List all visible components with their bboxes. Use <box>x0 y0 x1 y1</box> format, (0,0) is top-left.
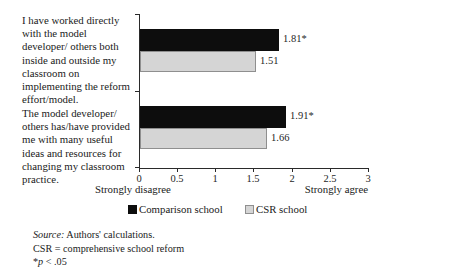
axis-anchor-low: Strongly disagree <box>95 183 171 196</box>
y-axis-tick <box>135 91 139 92</box>
x-axis-label-1-5: 1.5 <box>238 173 268 185</box>
note-source: Source: Authors' calculations. <box>33 228 333 242</box>
note-source-label: Source: <box>33 229 64 240</box>
figure-notes: Source: Authors' calculations. CSR = com… <box>33 228 333 269</box>
bar-comparison-category-2 <box>140 106 286 128</box>
note-significance: *p < .05 <box>33 255 333 269</box>
plot-area: 1.81* 1.51 1.91* 1.66 <box>139 14 368 168</box>
note-significance-rest: < .05 <box>43 256 67 267</box>
bar-value-csr-category-2: 1.66 <box>271 132 289 144</box>
legend-item-comparison-school: Comparison school <box>128 203 223 215</box>
legend-label-comparison-school: Comparison school <box>139 203 223 215</box>
x-axis-label-2: 2 <box>277 173 307 185</box>
legend-swatch-comparison-school <box>128 205 137 214</box>
bar-value-csr-category-1: 1.51 <box>260 55 278 67</box>
note-abbreviation: CSR = comprehensive school reform <box>33 242 333 256</box>
legend-item-csr-school: CSR school <box>245 203 307 215</box>
x-axis-tick-0-5 <box>177 168 178 172</box>
category-label-2: The model developer/ others has/have pro… <box>22 107 134 186</box>
x-axis-tick-1-5 <box>253 168 254 172</box>
x-axis-tick-2 <box>292 168 293 172</box>
bar-value-comparison-category-1: 1.81* <box>283 33 307 45</box>
x-axis-tick-0 <box>139 168 140 172</box>
bar-value-comparison-category-2: 1.91* <box>290 110 314 122</box>
x-axis-tick-3 <box>368 168 369 172</box>
y-axis-tick <box>135 14 139 15</box>
bar-csr-category-2 <box>140 128 267 149</box>
x-axis-label-1: 1 <box>200 173 230 185</box>
figure-horizontal-bar-chart: I have worked directly with the model de… <box>0 0 456 272</box>
axis-anchor-high: Strongly agree <box>305 183 368 196</box>
bar-csr-category-1 <box>140 51 256 72</box>
category-label-1: I have worked directly with the model de… <box>22 14 134 106</box>
x-axis-tick-1 <box>215 168 216 172</box>
legend-label-csr-school: CSR school <box>256 203 307 215</box>
legend-swatch-csr-school <box>245 205 254 214</box>
bar-comparison-category-1 <box>140 29 279 51</box>
x-axis-tick-2-5 <box>330 168 331 172</box>
note-source-text: Authors' calculations. <box>66 229 154 240</box>
